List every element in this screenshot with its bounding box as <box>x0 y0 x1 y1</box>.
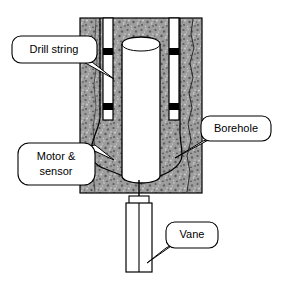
callout-motor-sensor-label-line1: Motor & <box>37 150 76 162</box>
motor-sensor-housing <box>122 37 160 183</box>
callout-vane-label: Vane <box>180 228 205 240</box>
stabilizer-lower-right <box>169 103 179 110</box>
stabilizer-upper-right <box>169 48 179 55</box>
stabilizer-upper-left <box>103 48 113 55</box>
callout-drill-string-label: Drill string <box>30 43 79 55</box>
callout-borehole-label: Borehole <box>214 122 258 134</box>
borehole-schematic-figure: Drill string Borehole Motor & sensor Van… <box>0 0 281 292</box>
callout-vane[interactable]: Vane <box>147 222 218 263</box>
motor-sensor-body <box>122 37 160 183</box>
stabilizer-lower-left <box>103 103 113 110</box>
vane-assembly <box>126 180 152 272</box>
callout-motor-sensor-label-line2: sensor <box>39 165 72 177</box>
diagram-canvas: Drill string Borehole Motor & sensor Van… <box>0 0 281 292</box>
